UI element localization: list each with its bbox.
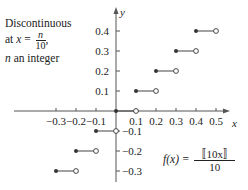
x-tick-label: −0.1 [86,115,106,127]
x-tick-label: 0.4 [189,115,203,127]
step-segment [114,109,138,114]
closed-dot-icon [194,29,198,33]
x-tick-label: −0.3 [46,115,66,127]
open-dot-icon [74,169,79,174]
step-segment [54,169,78,174]
y-tick-label: 0.1 [95,85,109,97]
note-line-2: at x = n10, [5,30,71,51]
open-dot-icon [114,129,119,134]
note-line-1: Discontinuous [5,16,71,30]
step-segment [74,149,98,154]
x-tick-label: 0.2 [149,115,163,127]
step-segment [194,29,218,34]
y-tick-label: 0.2 [95,65,109,77]
y-tick-label: 0.3 [95,45,109,57]
x-axis-arrow-icon [223,109,230,114]
step-segment [134,89,158,94]
y-axis-label: y [119,6,125,18]
closed-dot-icon [174,49,178,53]
formula-fraction: 〚10x〛10 [194,148,235,173]
y-tick-label: 0.4 [95,25,109,37]
function-formula: f(x) = 〚10x〛10 [163,148,235,173]
open-dot-icon [154,89,159,94]
closed-dot-icon [54,169,58,173]
closed-dot-icon [114,109,118,113]
y-tick-label: −0.1 [122,125,142,137]
closed-dot-icon [74,149,78,153]
step-segment [94,129,118,134]
y-tick-label: −0.2 [122,145,142,157]
x-axis-label: x [231,117,237,129]
closed-dot-icon [154,69,158,73]
open-dot-icon [214,29,219,34]
open-dot-icon [194,49,199,54]
closed-dot-icon [94,129,98,133]
step-segment [174,49,198,54]
open-dot-icon [94,149,99,154]
note-line-3: n an integer [5,51,71,65]
step-segment [154,69,178,74]
n-over-10-fraction: n10 [36,30,46,51]
y-axis-arrow-icon [114,7,119,14]
open-dot-icon [134,109,139,114]
x-tick-label: 0.3 [169,115,183,127]
closed-dot-icon [134,89,138,93]
x-tick-label: −0.2 [66,115,86,127]
x-tick-label: 0.5 [209,115,223,127]
open-dot-icon [174,69,179,74]
discontinuity-note: Discontinuous at x = n10, n an integer [5,16,71,65]
y-tick-label: −0.3 [122,165,142,177]
